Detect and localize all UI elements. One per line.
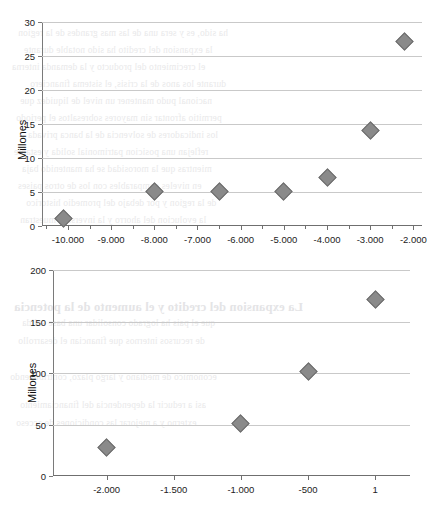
x-axis-tick [370,226,371,230]
x-axis-tick-label: -2.000 [93,484,120,495]
x-axis-minor-tick [133,226,134,229]
x-axis-tick-label: -500 [298,484,317,495]
x-axis-tick [327,226,328,230]
x-axis-tick [241,226,242,230]
data-point-marker [318,168,336,186]
gridline-horizontal [42,192,422,193]
x-axis-tick-label: 1 [373,484,378,495]
data-point-marker [210,182,228,200]
x-axis-tick [68,226,69,230]
data-point-marker [396,33,414,51]
x-axis-tick-label: -5.000 [270,234,297,245]
y-axis-tick [38,90,42,91]
y-axis-tick [49,476,53,477]
y-axis-tick-label: 150 [30,316,46,327]
data-point-marker [145,182,163,200]
x-axis-tick [413,226,414,230]
gridline-horizontal [42,56,422,57]
plot-area-top: 051015202530-10.000-9.000-8.000-7.000-6.… [42,22,422,226]
y-axis-tick [49,425,53,426]
y-axis-tick-label: 5 [30,187,35,198]
x-axis-tick [197,226,198,230]
scatter-chart-top: Millones 051015202530-10.000-9.000-8.000… [0,0,427,253]
y-axis-tick-label: 20 [24,85,35,96]
x-axis-tick [107,476,108,480]
x-axis-minor-tick [305,226,306,229]
gridline-horizontal [42,158,422,159]
y-axis-tick [49,270,53,271]
y-axis-tick [38,56,42,57]
x-axis-tick [375,476,376,480]
x-axis-tick-label: -1.000 [227,484,254,495]
data-point-marker [299,363,317,381]
x-axis-tick-label: -4.000 [314,234,341,245]
x-axis-tick [241,476,242,480]
x-axis-tick-label: -6.000 [227,234,254,245]
y-axis-tick [49,322,53,323]
y-axis-tick-label: 50 [35,419,46,430]
y-axis-tick-label: 200 [30,265,46,276]
data-point-marker [275,182,293,200]
y-axis-tick-label: 0 [41,471,46,482]
x-axis-tick [308,476,309,480]
x-axis-minor-tick [392,226,393,229]
x-axis-tick [284,226,285,230]
y-axis-tick [38,22,42,23]
x-axis-tick [174,476,175,480]
x-axis-tick-label: -10.000 [52,234,84,245]
x-axis-tick-label: -3.000 [357,234,384,245]
x-axis-tick-label: -8.000 [141,234,168,245]
y-axis-tick [38,158,42,159]
y-axis-tick-label: 25 [24,51,35,62]
x-axis-tick-label: -9.000 [98,234,125,245]
x-axis-tick [154,226,155,230]
y-axis-tick-label: 30 [24,17,35,28]
x-axis-minor-tick [90,226,91,229]
x-axis-tick-label: -7.000 [184,234,211,245]
y-axis-tick-label: 0 [30,221,35,232]
gridline-horizontal [42,90,422,91]
y-axis-tick-label: 15 [24,119,35,130]
y-axis-tick-label: 10 [24,153,35,164]
x-axis-minor-tick [262,226,263,229]
gridline-horizontal [53,322,410,323]
y-axis-tick [38,124,42,125]
x-axis-minor-tick [46,226,47,229]
x-axis-minor-tick [176,226,177,229]
y-axis-tick-label: 100 [30,368,46,379]
gridline-horizontal [53,270,410,271]
y-axis-tick [38,226,42,227]
x-axis-minor-tick [349,226,350,229]
data-point-marker [97,438,115,456]
x-axis-line-top [42,225,422,226]
x-axis-tick-label: -2.000 [400,234,427,245]
scatter-chart-bottom: Millones 050100150200-2.000-1.500-1.000-… [0,253,427,506]
gridline-horizontal [53,373,410,374]
x-axis-tick [111,226,112,230]
data-point-marker [232,414,250,432]
gridline-horizontal [42,22,422,23]
y-axis-tick [49,373,53,374]
x-axis-tick-label: -1.500 [160,484,187,495]
y-axis-tick [38,192,42,193]
data-point-marker [366,291,384,309]
x-axis-minor-tick [219,226,220,229]
plot-area-bottom: 050100150200-2.000-1.500-1.000-5001 [53,270,410,476]
